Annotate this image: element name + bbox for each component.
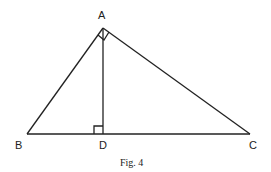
label-a: A: [98, 9, 106, 21]
triangle-diagram: A B D C Fig. 4: [0, 0, 271, 172]
figure-caption: Fig. 4: [120, 157, 143, 168]
segment-ab: [27, 28, 103, 134]
label-d: D: [99, 139, 107, 151]
segment-ac: [103, 28, 250, 134]
right-angle-mark-d: [94, 126, 103, 134]
label-c: C: [249, 139, 257, 151]
label-b: B: [15, 139, 22, 151]
